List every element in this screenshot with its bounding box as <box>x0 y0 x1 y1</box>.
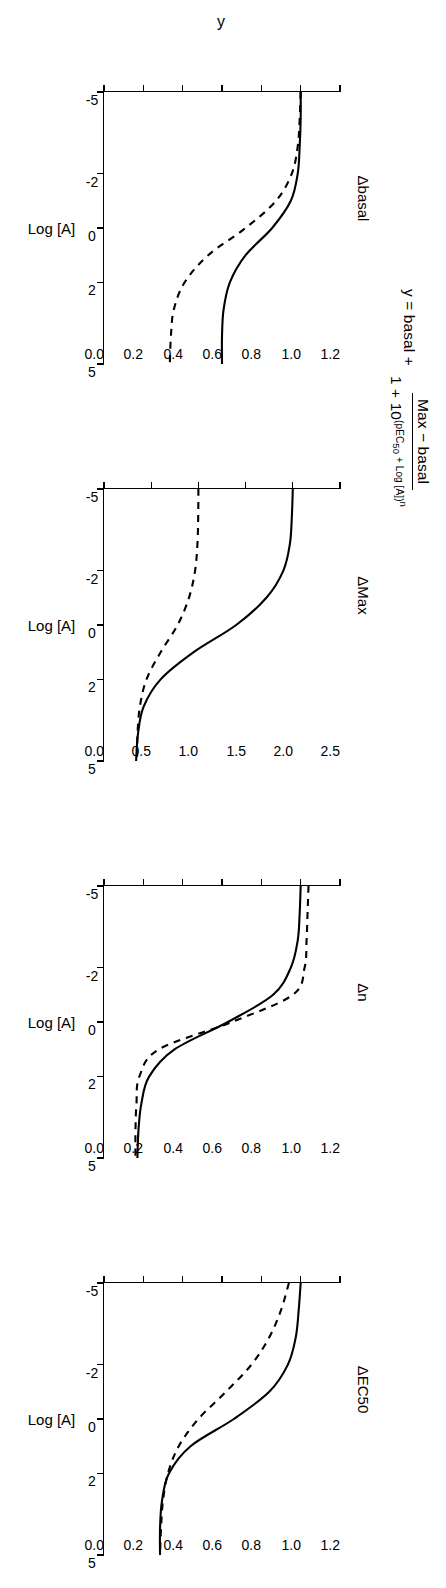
curve-solid <box>136 489 293 761</box>
x-axis-tick-label: 5 <box>88 1555 96 1571</box>
x-axis-tick <box>97 282 104 283</box>
panel-delta-basal: Δbasal0.00.20.40.60.81.01.2-5-2025Log [A… <box>0 0 384 397</box>
rotated-figure-wrapper: y = basal + Max − basal 1 + 10(pEC50 + L… <box>0 0 446 1588</box>
y-axis-tick <box>261 879 262 886</box>
y-axis-tick <box>182 879 183 886</box>
panel-delta-n: Δn0.00.20.40.60.81.01.2-5-2025Log [A] <box>0 794 384 1191</box>
x-axis-tick-label: -5 <box>86 489 98 505</box>
curve-dashed <box>135 886 308 1158</box>
x-axis-tick <box>97 1157 104 1158</box>
x-axis-tick-label: 5 <box>88 1158 96 1174</box>
x-axis-tick-label: 2 <box>88 679 96 695</box>
equation-exponent-rest: + Log [A]) <box>394 454 405 502</box>
plot-area: 0.00.20.40.60.81.01.2-5-2025Log [A] <box>104 886 340 1158</box>
model-equation: y = basal + Max − basal 1 + 10(pEC50 + L… <box>378 236 440 566</box>
curves <box>104 489 340 761</box>
equation-exponent-subscript: 50 <box>391 443 402 454</box>
y-axis-tick <box>339 85 340 92</box>
curve-solid <box>222 92 301 364</box>
y-axis-tick-label: 0.0 <box>85 346 104 362</box>
x-axis-tick <box>97 679 104 680</box>
y-axis-tick <box>292 482 293 489</box>
y-axis-tick-label: 0.0 <box>85 1537 104 1553</box>
equation-numerator: Max − basal <box>412 393 432 490</box>
x-axis-tick-label: 2 <box>88 1473 96 1489</box>
curves <box>104 1283 340 1555</box>
y-axis-tick <box>182 1276 183 1283</box>
x-axis-tick-label: 5 <box>88 761 96 777</box>
x-axis-tick-label: -5 <box>86 1283 98 1299</box>
equation-hill-power: n <box>399 502 410 507</box>
curve-dashed <box>160 1283 289 1555</box>
y-axis-tick-label: 0.0 <box>85 1140 104 1156</box>
y-axis-tick <box>245 482 246 489</box>
x-axis-tick-label: 2 <box>88 282 96 298</box>
equation-denominator: 1 + 10(pEC50 + Log [A])n <box>386 370 411 513</box>
y-axis-tick <box>339 482 340 489</box>
y-axis-tick <box>143 1276 144 1283</box>
y-axis-tick <box>143 879 144 886</box>
x-axis-tick-label: 2 <box>88 1076 96 1092</box>
y-axis-tick <box>261 85 262 92</box>
y-axis-tick <box>339 879 340 886</box>
plot-area: 0.00.20.40.60.81.01.2-5-2025Log [A] <box>104 1283 340 1555</box>
y-axis-tick <box>221 879 222 886</box>
curve-solid <box>137 886 300 1158</box>
x-axis-tick <box>97 1076 104 1077</box>
equation-fraction: Max − basal 1 + 10(pEC50 + Log [A])n <box>386 370 431 513</box>
x-axis-tick-label: -5 <box>86 886 98 902</box>
x-axis-tick-label: -2 <box>86 1365 98 1381</box>
y-axis-tick <box>182 85 183 92</box>
y-axis-tick-label: 0.0 <box>85 743 104 759</box>
equation-exponent-open: (pEC <box>394 420 405 443</box>
curve-dashed <box>137 489 198 761</box>
panel-title: ΔEC50 <box>355 1191 372 1588</box>
y-axis-tick <box>300 879 301 886</box>
plot-area: 0.00.51.01.52.02.5-5-2025Log [A] <box>104 489 340 761</box>
equation-denominator-prefix: 1 + 10 <box>387 376 404 420</box>
curve-dashed <box>170 92 301 364</box>
curve-solid <box>160 1283 301 1555</box>
x-axis-tick-label: -5 <box>86 92 98 108</box>
x-axis-tick-label: -2 <box>86 968 98 984</box>
equation-exponent-group: (pEC50 + Log [A])n <box>394 420 405 507</box>
y-axis-tick <box>261 1276 262 1283</box>
y-axis-tick <box>300 1276 301 1283</box>
y-axis-tick <box>300 85 301 92</box>
equation-lhs: y = basal + <box>400 289 418 366</box>
y-axis-tick <box>151 482 152 489</box>
y-axis-tick <box>198 482 199 489</box>
panel-title: Δn <box>355 794 372 1191</box>
x-axis-tick-label: -2 <box>86 571 98 587</box>
curves <box>104 886 340 1158</box>
panel-delta-max: ΔMax0.00.51.01.52.02.5-5-2025Log [A] <box>0 397 384 794</box>
x-axis-tick <box>97 760 104 761</box>
x-axis-tick-label: -2 <box>86 174 98 190</box>
y-axis-tick <box>143 85 144 92</box>
panel-title: ΔMax <box>355 397 372 794</box>
curves <box>104 92 340 364</box>
x-axis-tick-label: 5 <box>88 364 96 380</box>
panel-delta-ec50: ΔEC500.00.20.40.60.81.01.2-5-2025Log [A] <box>0 1191 384 1588</box>
figure-canvas: y = basal + Max − basal 1 + 10(pEC50 + L… <box>0 0 446 1588</box>
y-axis-tick <box>339 1276 340 1283</box>
x-axis-tick <box>97 1554 104 1555</box>
y-axis-tick <box>221 1276 222 1283</box>
x-axis-tick <box>97 363 104 364</box>
y-axis-tick <box>221 85 222 92</box>
plot-area: 0.00.20.40.60.81.01.2-5-2025Log [A]y <box>104 92 340 364</box>
panel-title: Δbasal <box>355 0 372 397</box>
y-axis-title: y <box>217 13 225 31</box>
x-axis-tick <box>97 1473 104 1474</box>
